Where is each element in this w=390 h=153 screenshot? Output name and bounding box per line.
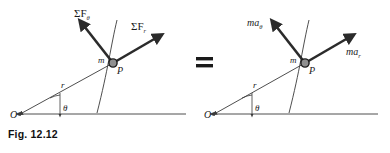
equals-bar-bottom — [196, 64, 213, 67]
equals-sign-group — [196, 57, 213, 67]
angle-label-ma: θ — [255, 103, 260, 113]
radial-ma-vector — [305, 38, 348, 63]
radial-ma-label: mar — [346, 46, 361, 59]
panel-mass-acceleration: maθ mar m P r θ O — [204, 17, 378, 120]
mass-label-ma: m — [290, 55, 297, 65]
mass-particle-forces — [109, 59, 117, 67]
transverse-force-label: ΣFθ — [74, 7, 91, 21]
transverse-ma-symbol: ma — [247, 17, 259, 28]
transverse-ma-subscript: θ — [259, 23, 263, 30]
radius-label-ma: r — [253, 80, 257, 90]
point-label-forces: P — [116, 65, 123, 76]
radial-ma-subscript: r — [358, 52, 361, 59]
radial-ma-symbol: ma — [346, 46, 358, 57]
physics-diagram: ΣFθ ΣFr m P r θ O — [0, 0, 390, 153]
transverse-force-subscript: θ — [87, 14, 91, 21]
mass-particle-ma — [301, 59, 309, 67]
point-label-ma: P — [308, 65, 315, 76]
transverse-force-symbol: ΣF — [74, 7, 87, 19]
origin-label-ma: O — [204, 109, 211, 120]
radius-line-ma — [216, 63, 305, 113]
radius-label-forces: r — [61, 80, 65, 90]
panel-forces: ΣFθ ΣFr m P r θ O — [10, 7, 186, 120]
equals-bar-top — [196, 57, 213, 60]
figure-container: ΣFθ ΣFr m P r θ O — [0, 0, 390, 153]
radius-line-forces — [22, 63, 113, 113]
radial-force-symbol: ΣF — [131, 20, 144, 32]
transverse-ma-label: maθ — [247, 17, 263, 30]
angle-label-forces: θ — [63, 103, 68, 113]
origin-label-forces: O — [10, 109, 17, 120]
radial-force-vector — [113, 38, 156, 63]
radial-force-label: ΣFr — [131, 20, 147, 34]
radial-force-subscript: r — [144, 27, 147, 34]
figure-caption: Fig. 12.12 — [8, 128, 58, 140]
mass-label-forces: m — [98, 55, 105, 65]
